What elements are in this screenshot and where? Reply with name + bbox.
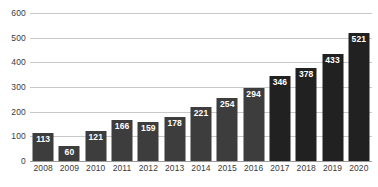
bar-chart: 11360121166159178221254294346378433521 0… [0,0,378,187]
bar-value-label: 159 [138,124,159,134]
x-axis-tick-label: 2017 [270,164,289,173]
x-axis-tick-label: 2015 [218,164,237,173]
bar[interactable]: 159 [138,122,159,161]
y-axis-tick-label: 200 [0,107,26,116]
bar-slot: 294 [240,13,266,161]
x-axis-tick-label: 2019 [323,164,342,173]
bar[interactable]: 113 [33,133,54,161]
x-axis-tick-label: 2009 [60,164,79,173]
bar-slot: 433 [319,13,345,161]
bar[interactable]: 346 [269,76,290,161]
bar[interactable]: 221 [190,107,211,162]
gridline [30,161,372,162]
bar[interactable]: 294 [243,88,264,161]
x-axis-tick-label: 2011 [113,164,132,173]
x-axis-tick-label: 2010 [86,164,105,173]
y-axis-tick-label: 300 [0,83,26,92]
x-axis-tick-label: 2020 [349,164,368,173]
bar-slot: 166 [109,13,135,161]
bar-value-label: 113 [33,135,54,145]
y-axis-tick-label: 500 [0,33,26,42]
x-axis-tick-label: 2016 [244,164,263,173]
bar-slot: 378 [293,13,319,161]
bar-value-label: 254 [217,100,238,110]
bar-slot: 113 [30,13,56,161]
bar-value-label: 166 [112,122,133,132]
x-axis-tick-label: 2018 [297,164,316,173]
bar[interactable]: 121 [85,131,106,161]
x-axis-tick-label: 2008 [33,164,52,173]
bar-slot: 60 [56,13,82,161]
bar-slot: 346 [267,13,293,161]
bar-value-label: 121 [85,133,106,143]
bar[interactable]: 521 [348,33,369,162]
bar-value-label: 346 [269,78,290,88]
bar-value-label: 521 [348,35,369,45]
plot-area: 11360121166159178221254294346378433521 [30,13,372,161]
x-axis-tick-label: 2013 [165,164,184,173]
y-axis-tick-label: 600 [0,9,26,18]
bar-value-label: 294 [243,90,264,100]
bar-slot: 159 [135,13,161,161]
y-axis-tick-label: 0 [0,157,26,166]
x-axis-tick-label: 2014 [191,164,210,173]
bars-layer: 11360121166159178221254294346378433521 [30,13,372,161]
bar[interactable]: 254 [217,98,238,161]
bar-slot: 221 [188,13,214,161]
bar-slot: 254 [214,13,240,161]
bar[interactable]: 178 [164,117,185,161]
x-axis-tick-label: 2012 [139,164,158,173]
bar[interactable]: 378 [296,68,317,161]
bar-slot: 121 [83,13,109,161]
bar[interactable]: 166 [112,120,133,161]
bar-value-label: 433 [322,56,343,66]
bar-value-label: 221 [190,109,211,119]
y-axis-tick-label: 400 [0,58,26,67]
bar-slot: 521 [346,13,372,161]
bar[interactable]: 60 [59,146,80,161]
bar-value-label: 178 [164,119,185,129]
y-axis-tick-label: 100 [0,132,26,141]
bar-value-label: 378 [296,70,317,80]
bar-value-label: 60 [59,148,80,158]
bar-slot: 178 [162,13,188,161]
bar[interactable]: 433 [322,54,343,161]
